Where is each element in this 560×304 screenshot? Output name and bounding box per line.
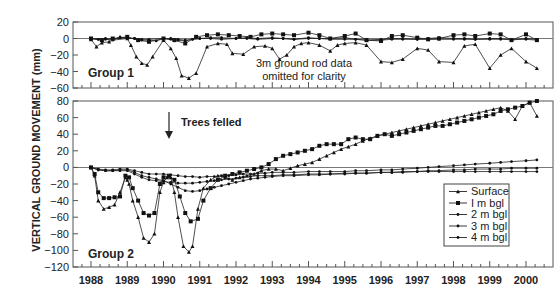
x-axis-year-labels: 1988198919901991199219931994199519961997… bbox=[79, 274, 538, 286]
top-x-ticks bbox=[82, 82, 544, 88]
year-label: 1997 bbox=[405, 274, 429, 286]
annotation-line-1: 3m ground rod data bbox=[256, 57, 353, 69]
group-2-label: Group 2 bbox=[88, 247, 134, 261]
y-tick-label: 20 bbox=[57, 145, 69, 157]
year-label: 1988 bbox=[79, 274, 103, 286]
year-label: 1991 bbox=[188, 274, 212, 286]
legend-label: Surface bbox=[471, 185, 509, 197]
series-3-m-bgl bbox=[90, 166, 539, 185]
year-label: 1999 bbox=[478, 274, 502, 286]
year-label: 1992 bbox=[224, 274, 248, 286]
y-tick-label: 80 bbox=[57, 95, 69, 107]
year-label: 1996 bbox=[369, 274, 393, 286]
group-1-label: Group 1 bbox=[88, 66, 134, 80]
y-axis-label: VERTICAL GROUND MOVEMENT (mm) bbox=[30, 48, 42, 252]
bottom-x-ticks bbox=[82, 261, 544, 267]
legend-label: 2 m bgl bbox=[471, 208, 507, 220]
y-tick-label: −40 bbox=[50, 66, 69, 78]
y-tick-label: −20 bbox=[50, 178, 69, 190]
year-label: 1990 bbox=[151, 274, 175, 286]
legend-label: I m bgl bbox=[471, 197, 504, 209]
y-tick-label: −20 bbox=[50, 49, 69, 61]
year-label: 1994 bbox=[296, 274, 321, 286]
year-label: 1993 bbox=[260, 274, 284, 286]
bottom-panel: 806040200−20−40−60−80−100−120 Group 2 Tr… bbox=[44, 95, 553, 273]
annotation-line-2: omitted for clarity bbox=[262, 70, 346, 82]
y-tick-label: −40 bbox=[50, 195, 69, 207]
y-tick-label: 20 bbox=[57, 16, 69, 28]
legend-label: 3 m bgl bbox=[471, 220, 507, 232]
legend: SurfaceI m bgl2 m bgl3 m bgl4 m bgl bbox=[444, 184, 509, 246]
trees-felled-arrow-icon bbox=[165, 112, 173, 139]
trees-felled-label: Trees felled bbox=[181, 116, 242, 128]
y-tick-label: −120 bbox=[44, 261, 69, 273]
y-tick-label: −80 bbox=[50, 228, 69, 240]
top-panel: 200−20−40−60 Group 1 3m ground rod data … bbox=[50, 16, 553, 94]
ground-movement-chart: VERTICAL GROUND MOVEMENT (mm) 200−20−40−… bbox=[0, 0, 560, 304]
y-tick-label: 60 bbox=[57, 112, 69, 124]
year-label: 1995 bbox=[333, 274, 357, 286]
y-tick-label: −60 bbox=[50, 211, 69, 223]
y-tick-label: 0 bbox=[63, 161, 69, 173]
year-label: 1998 bbox=[441, 274, 465, 286]
y-tick-label: −100 bbox=[44, 244, 69, 256]
year-label: 2000 bbox=[514, 274, 538, 286]
year-label: 1989 bbox=[115, 274, 139, 286]
legend-label: 4 m bgl bbox=[471, 231, 507, 243]
y-tick-label: 0 bbox=[63, 33, 69, 45]
y-tick-label: −60 bbox=[50, 82, 69, 94]
top-y-ticks: 200−20−40−60 bbox=[50, 16, 78, 94]
y-tick-label: 40 bbox=[57, 128, 69, 140]
